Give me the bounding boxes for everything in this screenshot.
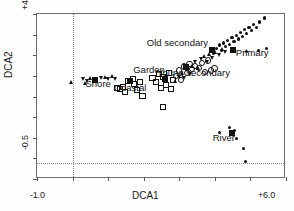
data-point — [250, 29, 253, 32]
y-axis-max-label: +4.5 — [20, 0, 30, 10]
x-axis-tick — [179, 177, 180, 181]
data-point — [173, 79, 177, 83]
data-point — [263, 16, 266, 19]
data-point — [205, 60, 209, 64]
data-point — [193, 60, 197, 64]
data-point — [224, 45, 227, 48]
vertical-reference-line — [73, 14, 74, 177]
horizontal-reference-line — [37, 163, 284, 164]
data-point — [218, 43, 221, 46]
group-label-coastal: Coastal — [114, 82, 146, 93]
y-axis-title: DCA2 — [3, 51, 14, 78]
y-axis-tick — [33, 97, 37, 98]
data-point — [202, 54, 206, 58]
data-point — [160, 104, 166, 110]
data-point — [210, 56, 214, 60]
data-point — [237, 37, 240, 40]
data-point — [220, 49, 223, 52]
group-label-garden: Garden — [133, 64, 165, 75]
data-point — [241, 35, 244, 38]
data-point — [230, 36, 233, 39]
data-point — [139, 93, 145, 99]
group-label-river: River — [213, 132, 235, 143]
y-axis-tick — [33, 55, 37, 56]
y-axis-tick — [33, 76, 37, 77]
data-point — [215, 47, 218, 50]
data-point — [235, 34, 238, 37]
y-axis-tick — [33, 158, 37, 159]
data-point — [69, 80, 73, 84]
data-point — [228, 126, 231, 129]
data-point — [223, 50, 227, 54]
data-point — [258, 20, 261, 23]
data-point — [232, 40, 235, 43]
data-point — [244, 160, 247, 163]
x-axis-title: DCA1 — [132, 190, 159, 201]
group-label-primary: Primary — [236, 47, 269, 58]
figure: +4.5 -0.5 DCA2 -1.0 +6.0 DCA1 Old second… — [0, 0, 294, 211]
data-point — [217, 53, 221, 57]
x-axis-tick — [286, 177, 287, 181]
x-axis-tick — [250, 177, 251, 181]
data-point — [243, 28, 246, 31]
data-point — [228, 43, 231, 46]
data-point — [226, 39, 229, 42]
group-label-old-secondary: Old secondary — [147, 37, 208, 48]
y-axis-tick — [33, 35, 37, 36]
data-point — [113, 77, 117, 81]
x-axis-min-label: -1.0 — [30, 190, 45, 200]
data-point — [168, 86, 174, 92]
y-axis-min-label: -0.5 — [20, 135, 30, 150]
data-point — [212, 51, 215, 54]
group-label-young-secondary: Young secondary — [157, 67, 230, 78]
x-axis-max-label: +6.0 — [258, 190, 275, 200]
group-label-shore: Shore — [85, 78, 110, 89]
x-axis-tick — [108, 177, 109, 181]
x-axis-tick — [73, 177, 74, 181]
data-point — [255, 26, 258, 29]
y-axis-tick — [33, 117, 37, 118]
data-point — [239, 31, 242, 34]
y-axis-tick — [33, 14, 37, 15]
x-axis-tick — [37, 177, 38, 181]
data-point — [242, 147, 245, 150]
data-point — [235, 137, 238, 140]
x-axis-tick — [144, 177, 145, 181]
y-axis-tick — [33, 138, 37, 139]
data-point — [245, 32, 248, 35]
x-axis-tick — [215, 177, 216, 181]
plot-area: Old secondaryPrimaryYoung secondaryGarde… — [36, 13, 285, 178]
